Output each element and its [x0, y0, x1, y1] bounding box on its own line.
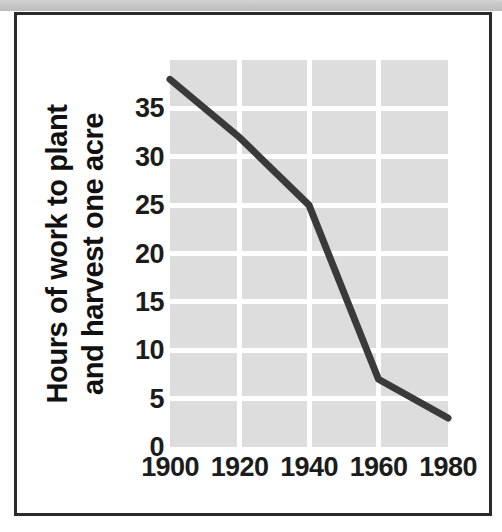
figure-frame: Hours of work to plant and harvest one a… — [14, 12, 492, 516]
y-tick-label: 25 — [118, 192, 164, 219]
y-tick-label: 15 — [118, 289, 164, 316]
line-chart: Hours of work to plant and harvest one a… — [17, 15, 495, 519]
y-axis-title-line-2-text: and harvest one acre — [78, 112, 108, 394]
x-tick-label: 1980 — [405, 452, 491, 482]
y-tick-label: 20 — [118, 241, 164, 268]
series-line — [170, 60, 448, 447]
y-axis-title-line-1: Hours of work to plant — [39, 60, 75, 447]
y-axis-title: Hours of work to plant and harvest one a… — [39, 60, 111, 447]
series-polyline — [170, 79, 448, 418]
x-axis-tick-labels: 19001920194019601980 — [170, 452, 448, 492]
y-axis-title-line-1-text: Hours of work to plant — [42, 104, 72, 403]
scan-band — [0, 0, 502, 11]
y-tick-label: 35 — [118, 95, 164, 122]
scan-band-gradient — [0, 0, 502, 11]
plot-area — [170, 60, 448, 447]
y-tick-label: 5 — [118, 386, 164, 413]
y-tick-label: 30 — [118, 144, 164, 171]
y-tick-label: 10 — [118, 337, 164, 364]
y-axis-title-line-2: and harvest one acre — [75, 60, 111, 447]
y-axis-tick-labels: 05101520253035 — [112, 60, 164, 447]
screenshot-root: Hours of work to plant and harvest one a… — [0, 0, 502, 532]
